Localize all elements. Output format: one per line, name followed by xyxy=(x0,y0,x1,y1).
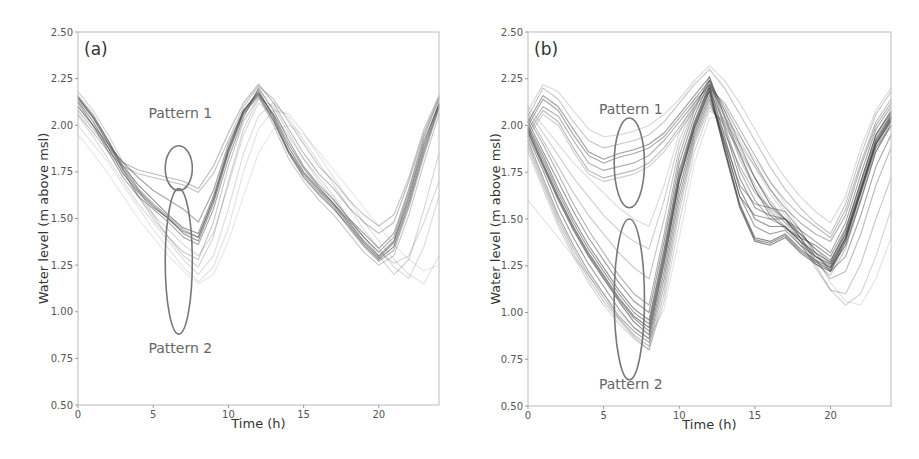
series-layer-a xyxy=(78,84,439,284)
x-tick-label: 0 xyxy=(525,410,531,421)
y-tick-label: 0.75 xyxy=(501,354,523,365)
y-tick-label: 1.25 xyxy=(51,260,73,271)
series-line xyxy=(78,125,439,283)
x-tick-label: 15 xyxy=(749,410,762,421)
series-line xyxy=(78,86,439,226)
series-line xyxy=(528,118,891,339)
y-tick-label: 1.00 xyxy=(501,307,523,318)
pattern-1-label-a: Pattern 1 xyxy=(148,105,212,121)
chart-panel-a: 0.500.751.001.251.501.752.002.252.50 051… xyxy=(36,27,439,432)
x-tick-label: 20 xyxy=(372,409,385,420)
series-line xyxy=(78,88,439,248)
series-line xyxy=(528,69,891,234)
pattern-1-ellipse xyxy=(614,118,644,208)
x-axis-ticks-a: 05101520 xyxy=(75,405,385,420)
panel-label-b: (b) xyxy=(534,39,558,59)
y-axis-ticks-a: 0.500.751.001.251.501.752.002.252.50 xyxy=(51,27,78,411)
x-tick-label: 20 xyxy=(824,410,837,421)
y-tick-label: 2.50 xyxy=(51,27,73,38)
x-axis-label-a: Time (h) xyxy=(230,416,285,431)
y-axis-label-b: Water level (m above msl) xyxy=(488,133,503,305)
series-line xyxy=(78,110,439,283)
y-tick-label: 2.00 xyxy=(51,120,73,131)
figure: 0.500.751.001.251.501.752.002.252.50 051… xyxy=(0,0,919,459)
x-tick-label: 0 xyxy=(75,409,81,420)
y-tick-label: 1.75 xyxy=(51,166,73,177)
y-tick-label: 0.75 xyxy=(51,353,73,364)
y-tick-label: 2.25 xyxy=(501,73,523,84)
y-tick-label: 1.25 xyxy=(501,260,523,271)
x-axis-ticks-b: 05101520 xyxy=(525,406,837,421)
series-line xyxy=(528,92,891,335)
chart-panel-b: 0.500.751.001.251.501.752.002.252.50 051… xyxy=(488,27,891,433)
series-line xyxy=(528,81,891,313)
series-line xyxy=(528,90,891,331)
y-tick-label: 0.50 xyxy=(501,401,523,412)
series-line xyxy=(78,84,439,233)
series-line xyxy=(528,103,891,346)
series-line xyxy=(528,96,891,339)
x-tick-label: 5 xyxy=(600,410,606,421)
x-tick-label: 5 xyxy=(150,409,156,420)
y-tick-label: 2.25 xyxy=(51,73,73,84)
panel-label-a: (a) xyxy=(84,39,108,59)
pattern-2-label-b: Pattern 2 xyxy=(599,376,663,392)
y-tick-label: 1.50 xyxy=(501,214,523,225)
series-line xyxy=(528,84,891,320)
y-tick-label: 1.75 xyxy=(501,167,523,178)
y-tick-label: 2.50 xyxy=(501,27,523,38)
x-tick-label: 15 xyxy=(297,409,310,420)
y-tick-label: 2.00 xyxy=(501,120,523,131)
y-axis-label-a: Water level (m above msl) xyxy=(36,133,51,305)
x-axis-label-b: Time (h) xyxy=(681,417,736,432)
y-axis-ticks-b: 0.500.751.001.251.501.752.002.252.50 xyxy=(501,27,528,412)
y-tick-label: 0.50 xyxy=(51,400,73,411)
series-layer-b xyxy=(528,66,891,350)
y-tick-label: 1.00 xyxy=(51,306,73,317)
y-tick-label: 1.50 xyxy=(51,213,73,224)
pattern-1-label-b: Pattern 1 xyxy=(599,101,663,117)
pattern-2-label-a: Pattern 2 xyxy=(148,340,212,356)
